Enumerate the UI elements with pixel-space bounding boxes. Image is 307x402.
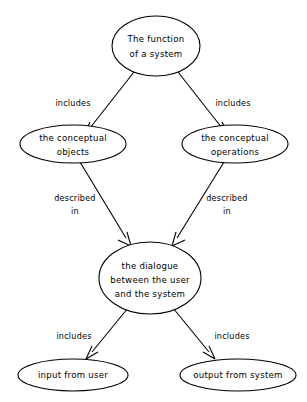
edge-operations-to-dialogue: described in: [172, 162, 248, 246]
node-function-of-a-system[interactable]: The function of a system: [112, 16, 200, 76]
node-label-line2: between the user: [110, 275, 190, 285]
node-label-line1: the conceptual: [39, 133, 107, 143]
edge-label-in: in: [71, 206, 79, 216]
diagram-canvas: includes includes described in described…: [0, 0, 307, 402]
edge-label-includes: includes: [215, 98, 250, 108]
edge-label-includes: includes: [56, 331, 91, 341]
node-conceptual-operations[interactable]: the conceptual operations: [182, 125, 288, 163]
node-label-line1: the conceptual: [201, 133, 269, 143]
edge-line: [92, 308, 128, 352]
node-label-line1: the dialogue: [122, 261, 179, 271]
flow-diagram: includes includes described in described…: [0, 0, 307, 402]
node-label-line1: The function: [127, 34, 185, 44]
edge-dialogue-to-input: includes: [56, 308, 128, 359]
node-conceptual-objects[interactable]: the conceptual objects: [20, 125, 126, 163]
edge-label-described: described: [54, 193, 95, 203]
node-label-line1: input from user: [38, 370, 108, 380]
node-ellipse[interactable]: [182, 125, 288, 163]
arrow-head-icon: [203, 346, 215, 359]
edge-line: [173, 308, 209, 352]
edge-label-includes: includes: [55, 98, 90, 108]
edge-label-in: in: [223, 206, 231, 216]
node-label-line2: of a system: [130, 49, 183, 59]
node-input-from-user[interactable]: input from user: [18, 359, 128, 391]
arrow-head-icon: [172, 232, 185, 246]
node-label-line2: objects: [57, 147, 90, 157]
edge-label-described: described: [206, 193, 247, 203]
node-label-line2: operations: [211, 147, 260, 157]
edge-dialogue-to-output: includes: [173, 308, 250, 359]
node-ellipse[interactable]: [20, 125, 126, 163]
node-output-from-system[interactable]: output from system: [180, 359, 296, 391]
node-label-line1: output from system: [193, 370, 282, 380]
arrow-head-icon: [118, 232, 131, 246]
arrow-head-icon: [86, 346, 98, 359]
node-dialogue-between-user-and-system[interactable]: the dialogue between the user and the sy…: [99, 242, 201, 314]
edge-label-includes: includes: [214, 331, 249, 341]
node-label-line3: and the system: [115, 289, 185, 299]
edge-line: [90, 72, 134, 128]
node-ellipse[interactable]: [112, 16, 200, 76]
edge-objects-to-dialogue: described in: [54, 162, 131, 246]
